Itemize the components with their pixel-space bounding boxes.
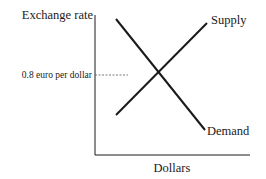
equilibrium-price-label: 0.8 euro per dollar <box>22 70 93 80</box>
supply-label: Supply <box>211 13 247 27</box>
supply-demand-chart: Exchange rate Dollars Supply Demand 0.8 … <box>0 0 266 179</box>
demand-line <box>116 19 205 130</box>
y-axis-label: Exchange rate <box>22 8 94 22</box>
x-axis-label: Dollars <box>154 161 191 175</box>
demand-label: Demand <box>207 124 250 138</box>
